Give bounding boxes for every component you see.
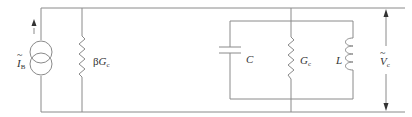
voltage-symbol: V	[380, 56, 387, 67]
label-gc: Gc	[300, 55, 311, 68]
resistor-beta-gc	[79, 8, 85, 112]
label-capacitor: C	[246, 54, 253, 65]
label-source-current: IB	[17, 58, 25, 71]
voltage-subscript: c	[387, 61, 390, 69]
current-arrow-icon	[32, 19, 37, 34]
gc-symbol: G	[300, 54, 308, 66]
capacitor	[219, 21, 241, 99]
beta-subscript: c	[107, 61, 110, 69]
label-inductor: L	[336, 55, 342, 66]
inductor-symbol: L	[336, 54, 342, 66]
beta-g-symbol: G	[99, 55, 107, 67]
capacitor-symbol: C	[246, 53, 253, 65]
inductor	[346, 21, 354, 99]
gc-subscript: c	[308, 60, 311, 68]
source-subscript: B	[21, 63, 26, 71]
source-symbol: I	[17, 58, 21, 69]
circuit-diagram	[0, 0, 412, 117]
label-beta-gc: βGc	[93, 56, 110, 69]
label-voltage: Vc	[380, 56, 390, 69]
resistor-gc	[288, 8, 294, 112]
